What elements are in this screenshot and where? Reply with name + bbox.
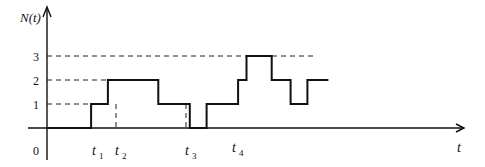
counting-process-chart: N(t) 3 2 1 0 t 1 t 2 t 3 t 4 t	[0, 0, 485, 167]
y-tick-2: 2	[33, 74, 39, 88]
step-series-n-t	[47, 56, 328, 128]
dashed-reference-lines	[47, 56, 314, 128]
t3-subscript: 3	[192, 151, 197, 161]
x-axis-label: t	[457, 140, 462, 155]
t4-label: t	[232, 140, 237, 155]
x-tick-t3: t 3	[185, 143, 197, 161]
t1-subscript: 1	[99, 151, 104, 161]
t1-label: t	[92, 143, 97, 158]
t2-subscript: 2	[122, 151, 127, 161]
origin-label: 0	[33, 144, 39, 158]
axes	[28, 7, 464, 160]
x-tick-t2: t 2	[115, 143, 127, 161]
t2-label: t	[115, 143, 120, 158]
y-axis-label: N(t)	[19, 10, 41, 25]
y-tick-3: 3	[33, 50, 39, 64]
y-tick-1: 1	[33, 98, 39, 112]
x-tick-t4: t 4	[232, 140, 244, 158]
t4-subscript: 4	[239, 148, 244, 158]
t3-label: t	[185, 143, 190, 158]
x-tick-t1: t 1	[92, 143, 104, 161]
